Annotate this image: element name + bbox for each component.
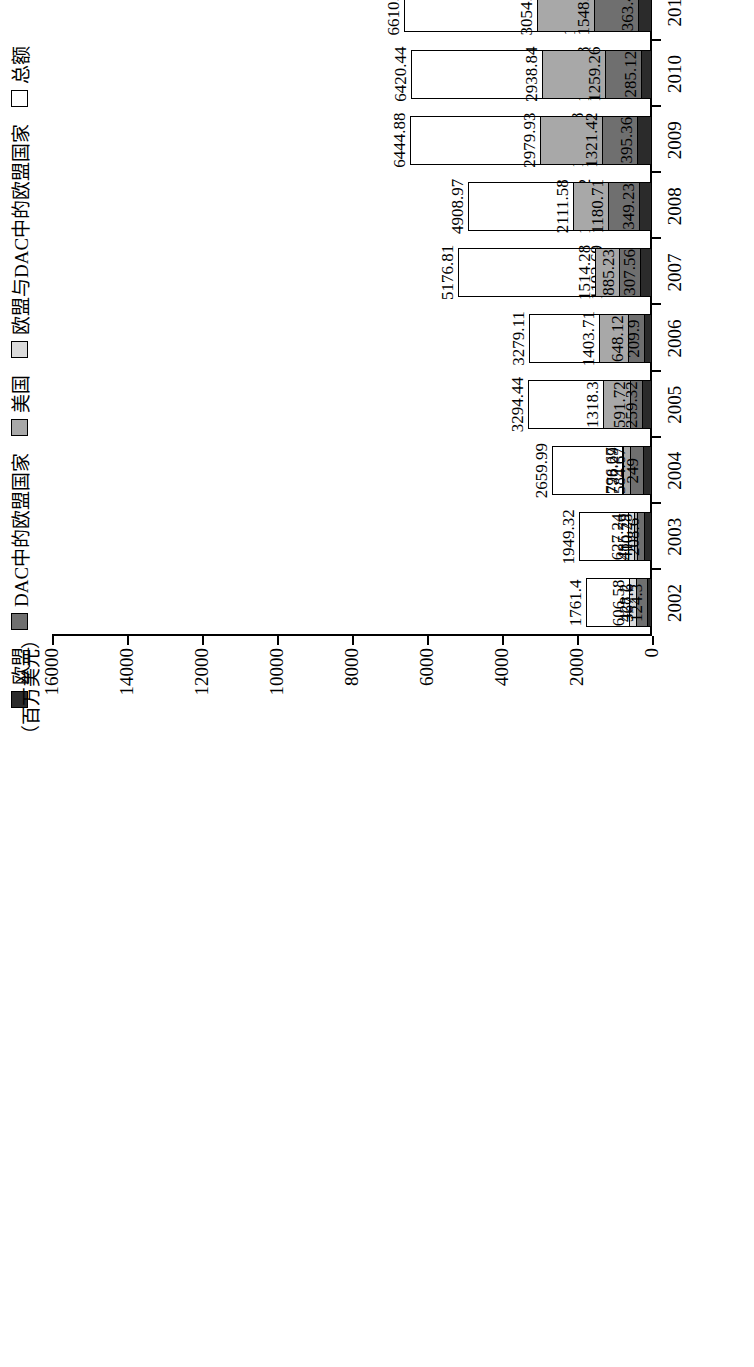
bar-value-label: 1318.3 [584,381,601,428]
y-axis-tick-mark [52,636,54,645]
bar-group: 3294.44848.341318.3591.72259.322005 [52,380,652,429]
bar-group: 6444.881716.782979.931321.42395.362009 [52,116,652,165]
y-axis-tick-mark [427,636,429,645]
bar-value-label: 1514.28 [576,245,593,300]
bar-value-label: 1180.71 [589,179,606,234]
y-axis-tick-label: 6000 [416,648,438,686]
bar-value-label: 3054.95 [518,0,535,36]
y-axis-tick-label: 16000 [41,648,63,696]
bar-value-label: 6444.88 [391,113,408,168]
bar-segment: 209.9 [644,314,652,363]
x-axis-tick-mark [652,171,661,173]
bar-value-label: 2659.99 [533,443,550,498]
bar-group: 1949.32627.24485.79410.28208.62003 [52,512,652,561]
bar-value-label: 209.9 [625,319,642,357]
bar-segment: 307.56 [640,248,652,297]
x-axis-tick-mark [652,568,661,570]
bar-value-label: 1403.71 [580,311,597,366]
x-axis-tick-label: 2004 [664,452,686,490]
bar-segment: 249 [643,446,652,495]
bar-value-label: 2938.84 [523,46,540,101]
bar-segment: 259.32 [642,380,652,429]
bar-value-label: 6420.44 [392,46,409,101]
bar-value-label: 1548.86 [575,0,592,36]
bar-group: 3279.11869.021403.71648.12209.92006 [52,314,652,363]
legend-swatch-icon [11,419,28,436]
legend-swatch-icon [11,613,28,630]
x-axis-tick-label: 2008 [664,187,686,225]
bar-value-label: 6610.44 [385,0,402,36]
x-axis-tick-label: 2003 [664,518,686,556]
bar-segment: 208.6 [644,512,652,561]
y-axis-tick-label: 14000 [116,648,138,696]
bar-value-label: 5176.81 [439,245,456,300]
bar-value-label: 4908.97 [449,179,466,234]
y-axis-tick-mark [577,636,579,645]
x-axis-tick-mark [652,39,661,41]
y-axis-tick-mark [277,636,279,645]
y-axis-tick-label: 8000 [341,648,363,686]
legend-item-total: 总额 [6,46,33,107]
bar-segment: 124.3 [647,578,652,627]
bar-group: 6610.441912.333054.951548.86363.472011 [52,0,652,32]
x-axis-tick-label: 2007 [664,253,686,291]
bar-segment: 395.36 [637,116,652,165]
legend-label: 美国 [6,375,33,413]
x-axis-tick-mark [652,502,661,504]
y-axis-tick-label: 0 [641,648,663,658]
bar-group: 5176.811192.691514.28885.23307.562007 [52,248,652,297]
bar-chart-figure: 欧盟 DAC中的欧盟国家 美国 欧盟与DAC中的欧盟国家 总额 （百万美元） [0,0,754,754]
x-axis-tick-mark [652,303,661,305]
x-axis-tick-mark [652,370,661,372]
x-axis-tick-mark [652,105,661,107]
bar-group: 4908.971530.022111.581180.71349.232008 [52,182,652,231]
bar-group: 2659.99796.67778.29584.672492004 [52,446,652,495]
bar-value-label: 395.36 [618,117,635,164]
legend-item-usa: 美国 [6,375,33,436]
legend-label: DAC中的欧盟国家 [6,453,33,607]
y-axis-unit-label: （百万美元） [16,630,43,744]
legend-item-dac-eu: DAC中的欧盟国家 [6,453,33,630]
legend-item-eu-and-dac-eu: 欧盟与DAC中的欧盟国家 [6,124,33,358]
y-axis-tick-mark [352,636,354,645]
plot-area: 0200040006000800010000120001400016000 17… [52,0,652,636]
y-axis-tick-label: 4000 [491,648,513,686]
y-axis-tick-label: 12000 [191,648,213,696]
y-axis-tick-mark [127,636,129,645]
x-axis-tick-label: 2002 [664,584,686,622]
y-axis-tick-mark [652,636,654,645]
bar-value-label: 1321.42 [583,113,600,168]
bar-value-label: 249 [624,458,641,484]
rotated-figure-wrapper: 欧盟 DAC中的欧盟国家 美国 欧盟与DAC中的欧盟国家 总额 （百万美元） [0,0,754,754]
bar-value-label: 3279.11 [510,311,527,366]
y-axis-tick-mark [502,636,504,645]
bar-series-container: 1761.4606.58367.6428.2124.320021949.3262… [52,0,652,636]
bar-value-label: 285.12 [622,51,639,98]
bar-group: 1761.4606.58367.6428.2124.32002 [52,578,652,627]
x-axis-tick-label: 2009 [664,121,686,159]
bar-segment: 285.12 [641,50,652,99]
bar-group: 6420.441544.282938.841259.26285.122010 [52,50,652,99]
x-axis-tick-mark [652,436,661,438]
x-axis-tick-label: 2011 [664,0,686,27]
bar-value-label: 1949.32 [560,509,577,564]
x-axis-tick-label: 2010 [664,55,686,93]
bar-segment: 349.23 [639,182,652,231]
bar-value-label: 648.12 [609,315,626,362]
legend-label: 欧盟与DAC中的欧盟国家 [6,124,33,335]
bar-value-label: 885.23 [600,249,617,296]
bar-value-label: 1259.26 [586,46,603,101]
bar-value-label: 349.23 [620,183,637,230]
x-axis-tick-label: 2006 [664,320,686,358]
bar-value-label: 208.6 [625,518,642,556]
legend-swatch-icon [11,341,28,358]
x-axis-tick-label: 2005 [664,386,686,424]
y-axis-tick-label: 2000 [566,648,588,686]
bar-value-label: 2111.58 [554,179,571,233]
legend-label: 总额 [6,46,33,84]
y-axis-tick-mark [202,636,204,645]
bar-value-label: 124.3 [628,584,645,622]
bar-value-label: 307.56 [621,249,638,296]
x-axis-tick-mark [652,237,661,239]
bar-value-label: 363.47 [619,0,636,31]
